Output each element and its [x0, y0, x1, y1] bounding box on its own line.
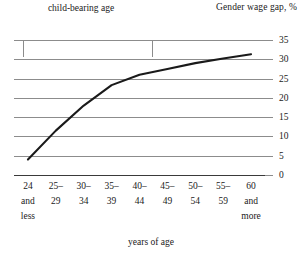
x-axis-label-line: 40–	[126, 179, 154, 194]
x-axis-label-line: 29	[42, 194, 70, 209]
y-tick-label-0: 0	[279, 170, 284, 180]
x-axis-title: years of age	[0, 237, 302, 247]
y-tick-label-30: 30	[279, 54, 289, 64]
x-axis-label-line: 24	[14, 179, 42, 194]
x-axis-label-line: 34	[70, 194, 98, 209]
y-tick-mark-30	[265, 59, 273, 60]
y-tick-label-25: 25	[279, 74, 289, 84]
x-axis-label: 25–29	[42, 179, 70, 239]
x-axis-label-line: 60	[237, 179, 265, 194]
x-axis-label-line: 49	[153, 194, 181, 209]
y-tick-label-20: 20	[279, 93, 289, 103]
y-tick-label-35: 35	[279, 35, 289, 45]
x-axis-label: 45–49	[153, 179, 181, 239]
x-axis-label: 60andmore	[237, 179, 265, 239]
x-axis-label-line: 50–	[181, 179, 209, 194]
x-axis-label: 55–59	[209, 179, 237, 239]
x-axis-label-line: 55–	[209, 179, 237, 194]
x-axis-line	[14, 175, 265, 176]
y-tick-label-5: 5	[279, 151, 284, 161]
x-axis-label: 40–44	[126, 179, 154, 239]
x-axis-label-line: less	[14, 209, 42, 224]
x-axis-label-line: and	[237, 194, 265, 209]
y-axis-title: Gender wage gap, %	[216, 2, 302, 14]
x-axis-label-line: 44	[126, 194, 154, 209]
y-tick-mark-20	[265, 98, 273, 99]
x-axis-label-line: more	[237, 209, 265, 224]
y-tick-mark-5	[265, 156, 273, 157]
y-tick-mark-35	[265, 40, 273, 41]
x-axis-label-line: 39	[98, 194, 126, 209]
x-axis-label-line: 30–	[70, 179, 98, 194]
annotation-child-bearing-age: child-bearing age	[14, 2, 148, 14]
x-axis-label-line: 25–	[42, 179, 70, 194]
y-tick-label-15: 15	[279, 112, 289, 122]
x-axis-label-line: 59	[209, 194, 237, 209]
y-tick-mark-10	[265, 136, 273, 137]
x-axis-label-line: 45–	[153, 179, 181, 194]
y-tick-mark-25	[265, 79, 273, 80]
y-tick-mark-0	[265, 175, 273, 176]
y-tick-label-10: 10	[279, 131, 289, 141]
y-tick-mark-15	[265, 117, 273, 118]
x-axis-label: 30–34	[70, 179, 98, 239]
chart-figure: Gender wage gap, % 35 30 25 20 15 10 5 0	[0, 0, 302, 264]
x-axis-label: 35–39	[98, 179, 126, 239]
x-axis-label: 24andless	[14, 179, 42, 239]
x-axis-label-line: 54	[181, 194, 209, 209]
x-axis-label: 50–54	[181, 179, 209, 239]
x-axis-labels: 24andless25–2930–3435–3940–4445–4950–545…	[14, 179, 265, 239]
x-axis-label-line: and	[14, 194, 42, 209]
data-series-line	[14, 40, 265, 175]
x-axis-label-line: 35–	[98, 179, 126, 194]
plot-area: 35 30 25 20 15 10 5 0	[14, 40, 265, 175]
